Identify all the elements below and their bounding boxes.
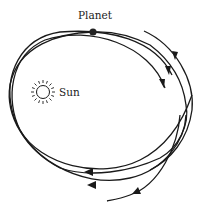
planet-label: Planet <box>78 9 113 21</box>
sun-icon <box>31 80 55 104</box>
precession-diagram: Planet Sun <box>0 0 203 214</box>
planet-dot <box>89 28 96 35</box>
sun-label: Sun <box>59 86 80 98</box>
arrowhead-lower-1 <box>84 168 93 176</box>
arrowhead-upper-3 <box>159 79 165 88</box>
arrowhead-lower-2 <box>87 181 96 189</box>
orbit-3 <box>9 31 192 201</box>
